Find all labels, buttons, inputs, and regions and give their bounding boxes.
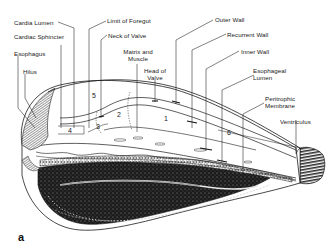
label-head-of-valve-line2: Valve <box>140 74 170 81</box>
region-number-2: 2 <box>117 111 121 118</box>
region-number-6: 6 <box>227 129 231 136</box>
label-outer-wall: Outer Wall <box>215 16 245 23</box>
label-esophagus: Esophagus <box>14 50 45 57</box>
label-peritrophic-membrane-line2: Membrane <box>265 102 295 109</box>
label-limit-of-foregut: Limit of Foregut <box>107 17 151 24</box>
label-peritrophic-membrane: Peritrophic Membrane <box>265 95 295 109</box>
label-head-of-valve: Head of Valve <box>140 67 170 81</box>
region-number-3: 3 <box>96 123 100 130</box>
label-inner-wall: Inner Wall <box>241 48 269 55</box>
label-recurrent-wall: Recurrent Wall <box>227 31 268 38</box>
label-esophageal-lumen: Esophageal Lumen <box>253 67 286 81</box>
region-number-5: 5 <box>92 92 96 99</box>
label-neck-of-valve: Neck of Valve <box>108 32 146 39</box>
label-esophageal-lumen-line2: Lumen <box>253 74 286 81</box>
label-cardia-lumen: Cardia Lumen <box>14 19 53 26</box>
label-cardiac-sphincter: Cardiac Sphincter <box>14 33 64 40</box>
region-number-4: 4 <box>68 127 72 134</box>
label-ventriculus: Ventriculus <box>280 118 311 125</box>
label-matrix-and-muscle-line1: Matrix and <box>120 48 156 55</box>
region-number-1: 1 <box>164 115 168 122</box>
label-matrix-and-muscle: Matrix and Muscle <box>120 48 156 62</box>
label-esophageal-lumen-line1: Esophageal <box>253 67 286 74</box>
panel-label: a <box>18 231 24 243</box>
label-hilus: Hilus <box>23 68 37 75</box>
label-peritrophic-membrane-line1: Peritrophic <box>265 95 295 102</box>
label-head-of-valve-line1: Head of <box>140 67 170 74</box>
label-matrix-and-muscle-line2: Muscle <box>120 55 156 62</box>
